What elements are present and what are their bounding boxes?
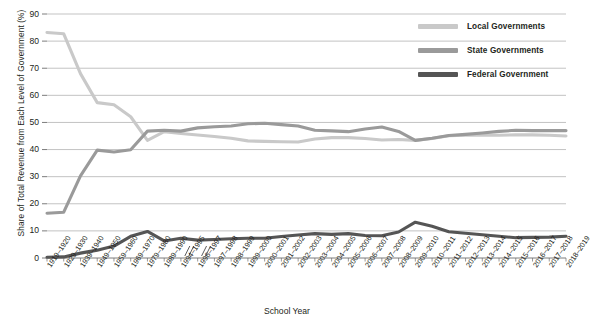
y-tick-label: 20: [13, 199, 39, 208]
chart-legend: Local GovernmentsState GovernmentsFedera…: [418, 14, 548, 86]
legend-label: State Governments: [467, 46, 544, 55]
legend-item: Local Governments: [418, 14, 548, 38]
legend-item: Federal Government: [418, 62, 548, 86]
y-tick-label: 80: [13, 37, 39, 46]
y-tick-label: 10: [13, 226, 39, 235]
y-tick-label: 0: [13, 254, 39, 263]
y-tick-label: 50: [13, 118, 39, 127]
y-tick-label: 40: [13, 145, 39, 154]
y-tick-label: 60: [13, 91, 39, 100]
y-tick-label: 90: [13, 10, 39, 19]
legend-swatch: [418, 72, 458, 77]
legend-item: State Governments: [418, 38, 548, 62]
y-tick-label: 30: [13, 172, 39, 181]
series-line: [47, 123, 566, 213]
y-tick-label: 70: [13, 64, 39, 73]
legend-label: Local Governments: [467, 22, 545, 31]
legend-swatch: [418, 48, 458, 53]
legend-swatch: [418, 24, 458, 29]
legend-label: Federal Government: [467, 70, 548, 79]
